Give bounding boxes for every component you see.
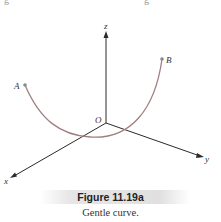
gentle-curve [25,59,162,137]
figure-number: Figure 11.19a [0,190,221,204]
point-b-label: B [166,55,172,65]
x-axis-label: x [3,176,8,186]
z-axis-arrow-icon [104,31,109,38]
x-axis-arrow-icon [10,173,17,179]
figure-caption: Gentle curve. [0,206,221,219]
y-axis-arrow-icon [196,153,204,158]
y-axis-label: y [204,154,209,164]
z-axis-label: z [103,21,108,31]
origin-label: O [95,115,102,125]
point-a-label: A [13,81,20,91]
figure-diagram: z y x O A B [0,0,221,190]
y-axis [106,123,200,156]
point-a-dot [23,83,27,87]
x-axis [14,123,106,176]
point-b-dot [160,57,164,61]
